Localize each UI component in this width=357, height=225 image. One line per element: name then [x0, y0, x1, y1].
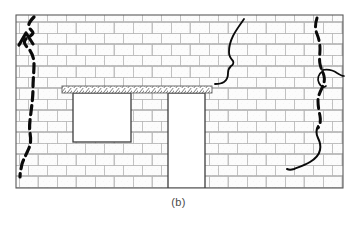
figure-caption: (b)	[0, 196, 357, 208]
masonry-wall-diagram	[0, 0, 357, 225]
door-opening	[168, 93, 205, 188]
lintel-beam	[62, 86, 212, 93]
figure-container: (b)	[0, 0, 357, 225]
window-opening	[73, 93, 131, 142]
